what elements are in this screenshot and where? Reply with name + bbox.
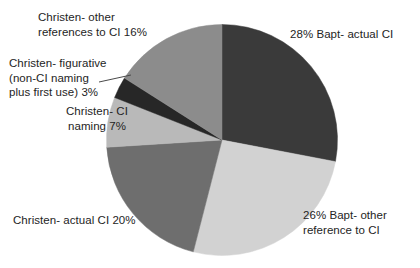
pie-chart: Christen- other references to CI 16% Chr… [0, 0, 420, 268]
pie-label-bapt-other-reference: 26% Bapt- other reference to CI [303, 208, 420, 237]
pie-slice [222, 25, 337, 162]
pie-label-christen-figurative: Christen- figurative (non-CI naming plus… [9, 56, 159, 100]
pie-label-christen-actual-ci: Christen- actual CI 20% [13, 213, 188, 228]
pie-label-bapt-actual-ci: 28% Bapt- actual CI [290, 27, 420, 42]
pie-label-christen-other-references: Christen- other references to CI 16% [38, 10, 198, 39]
pie-label-christen-ci-naming: Christen- CI naming 7% [42, 104, 152, 133]
